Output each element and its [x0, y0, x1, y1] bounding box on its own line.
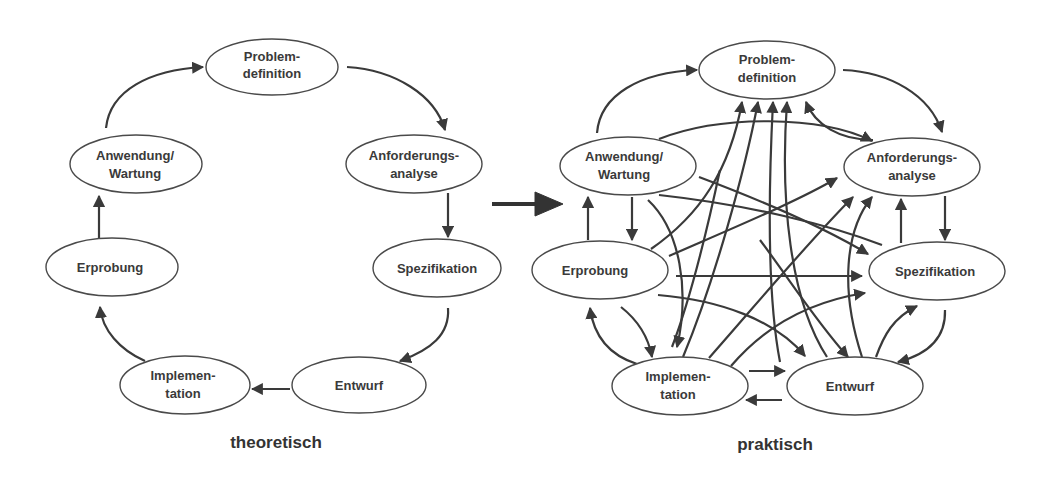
edge-testing-to-implementation: [621, 307, 652, 357]
node-label: Anforderungs-: [867, 150, 957, 165]
node-design: Entwurf: [787, 357, 923, 415]
edge-problem-to-requirements: [843, 70, 942, 132]
practical-diagram: Problem- definition Anforderungs- analys…: [532, 41, 1005, 454]
node-operation-maintenance: Anwendung/ Wartung: [70, 135, 202, 193]
transition-arrow-icon: [492, 192, 563, 216]
node-testing: Erprobung: [532, 241, 668, 299]
node-label: Entwurf: [335, 378, 384, 393]
node-label: Anforderungs-: [369, 148, 459, 163]
node-label: Problem-: [244, 49, 300, 64]
node-label: definition: [738, 70, 797, 85]
edge-specification-to-design: [400, 308, 448, 361]
caption-practical: praktisch: [737, 435, 813, 454]
node-label: Anwendung/: [585, 149, 663, 164]
node-specification: Spezifikation: [869, 242, 1005, 300]
node-label: Erprobung: [77, 260, 143, 275]
node-label: Implemen-: [645, 369, 710, 384]
node-implementation: Implemen- tation: [612, 357, 748, 415]
node-testing: Erprobung: [46, 238, 178, 296]
edge-design-to-problem-a: [770, 102, 780, 362]
node-label: Spezifikation: [397, 261, 477, 276]
node-problem-definition: Problem- definition: [206, 39, 338, 95]
edge-design-to-specification: [876, 306, 917, 357]
edge-problem-to-requirements: [347, 67, 445, 130]
node-label: tation: [660, 387, 695, 402]
node-label: Erprobung: [562, 263, 628, 278]
edge-requirements-to-problem: [806, 102, 873, 140]
node-specification: Spezifikation: [373, 239, 501, 297]
theoretical-diagram: Problem- definition Anforderungs- analys…: [46, 39, 501, 452]
edge-implementation-to-problem-a: [683, 102, 758, 357]
edge-implementation-to-testing: [100, 307, 145, 361]
edge-operation-to-problem: [106, 67, 203, 128]
node-label: Anwendung/: [96, 148, 174, 163]
node-label: analyse: [888, 168, 936, 183]
node-label: Entwurf: [826, 379, 875, 394]
node-label: analyse: [390, 166, 438, 181]
node-label: Spezifikation: [895, 264, 975, 279]
node-label: Wartung: [598, 167, 650, 182]
edge-operation-to-problem: [597, 70, 697, 133]
edge-testing-to-requirements: [669, 178, 837, 256]
node-label: definition: [243, 66, 302, 81]
node-label: Wartung: [109, 166, 161, 181]
node-implementation: Implemen- tation: [120, 356, 250, 414]
node-operation-maintenance: Anwendung/ Wartung: [560, 137, 696, 195]
node-label: Implemen-: [150, 368, 215, 383]
node-problem-definition: Problem- definition: [699, 41, 835, 99]
caption-theoretical: theoretisch: [230, 433, 322, 452]
node-requirements-analysis: Anforderungs- analyse: [844, 138, 980, 196]
node-design: Entwurf: [292, 357, 426, 413]
process-diagram: Problem- definition Anforderungs- analys…: [0, 0, 1044, 481]
node-label: Problem-: [739, 52, 795, 67]
node-requirements-analysis: Anforderungs- analyse: [346, 135, 482, 193]
node-label: tation: [165, 386, 200, 401]
edge-specification-to-design: [898, 310, 945, 362]
edge-operation-to-requirements: [659, 121, 872, 141]
